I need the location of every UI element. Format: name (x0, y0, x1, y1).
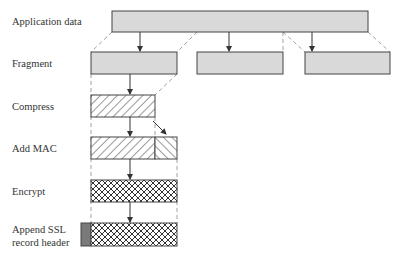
compressed-box (91, 95, 155, 117)
fragment-box-2 (197, 52, 283, 74)
fragment-box-1 (91, 52, 177, 74)
mac-data-box (91, 137, 155, 159)
label-fragment: Fragment (12, 58, 52, 69)
ssl-header-box (81, 223, 91, 246)
label-compress: Compress (12, 101, 54, 112)
label-record-header: record header (12, 237, 70, 248)
record-box (91, 223, 177, 246)
mac-box (155, 137, 177, 159)
encrypted-box (91, 180, 177, 202)
label-encrypt: Encrypt (12, 186, 45, 197)
label-append-ssl: Append SSL (12, 224, 66, 235)
ssl-record-diagram: Application data Fragment Compress Add M… (0, 0, 400, 257)
application-data-box (112, 11, 368, 32)
label-add-mac: Add MAC (12, 143, 57, 154)
fragment-box-3 (305, 52, 390, 74)
label-application-data: Application data (12, 16, 82, 27)
